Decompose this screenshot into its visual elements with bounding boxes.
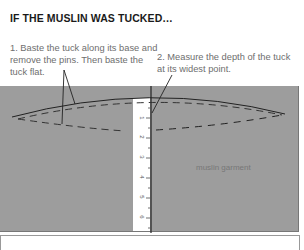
next-section-frame <box>0 235 300 250</box>
ruler-ticks <box>146 108 150 228</box>
